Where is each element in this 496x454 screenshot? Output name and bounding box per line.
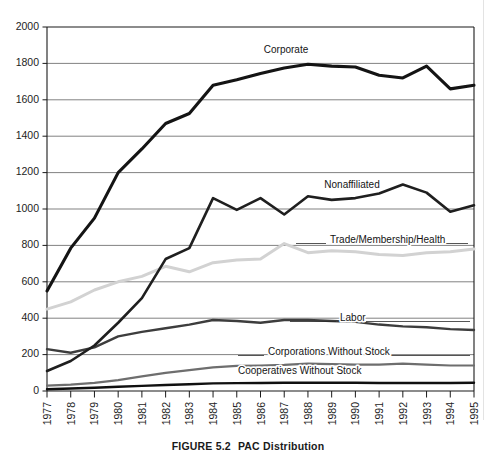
x-axis-tick-label: 1992 [397,402,409,426]
x-axis-tick-label: 1984 [207,402,219,426]
x-axis-tick-label: 1986 [255,402,267,426]
x-axis-tick-label: 1977 [41,402,53,426]
series-label-trade: Trade/Membership/Health [330,234,445,245]
y-axis-tick-label: 0 [33,384,39,396]
x-axis-tick-label: 1995 [468,402,480,426]
figure-caption: FIGURE 5.2PAC Distribution [0,440,496,454]
series-label-corporations_without_stock: Corporations Without Stock [268,346,391,357]
y-axis-tick-label: 600 [21,275,39,287]
figure-title: PAC Distribution [238,440,324,452]
y-axis-tick-label: 2000 [16,20,40,32]
y-axis-tick-label: 1000 [16,202,40,214]
y-axis: 2000180016001400120010008006004002000 [16,20,47,396]
x-axis-tick-label: 1978 [65,402,77,426]
y-axis-tick-label: 1600 [16,93,40,105]
y-axis-tick-label: 1400 [16,129,40,141]
x-axis-tick-label: 1980 [112,402,124,426]
x-axis-tick-label: 1994 [444,402,456,426]
series-label-nonaffiliated: Nonaffiliated [324,179,379,190]
x-axis-tick-label: 1981 [136,402,148,426]
x-axis-tick-label: 1983 [183,402,195,426]
y-axis-tick-label: 200 [21,347,39,359]
x-axis-tick-label: 1985 [231,402,243,426]
figure-container: 2000180016001400120010008006004002000 19… [0,0,496,454]
pac-distribution-line-chart: 2000180016001400120010008006004002000 19… [0,0,496,440]
series-label-cooperatives_without_stock: Cooperatives Without Stock [238,365,362,376]
page-edge-shadow [483,0,484,420]
x-axis-tick-label: 1991 [373,402,385,426]
x-axis-tick-label: 1990 [349,402,361,426]
series-label-labor: Labor [340,312,366,323]
x-axis-tick-label: 1988 [302,402,314,426]
y-axis-tick-label: 800 [21,238,39,250]
y-axis-tick-label: 1200 [16,165,40,177]
x-axis: 1977197819791980198119821983198419851986… [41,391,480,425]
y-axis-tick-label: 1800 [16,56,40,68]
x-axis-tick-label: 1993 [421,402,433,426]
x-axis-tick-label: 1987 [278,402,290,426]
x-axis-tick-label: 1989 [326,402,338,426]
figure-number: FIGURE 5.2 [172,440,231,452]
x-axis-tick-label: 1982 [160,402,172,426]
y-axis-tick-label: 400 [21,311,39,323]
series-label-corporate: Corporate [264,44,309,55]
x-axis-tick-label: 1979 [88,402,100,426]
